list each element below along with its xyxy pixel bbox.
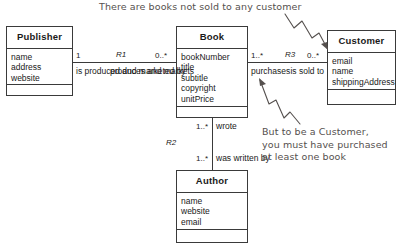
- attribute: bookNumber: [181, 52, 247, 62]
- class-operations-author: [177, 230, 247, 242]
- attribute: shippingAddress: [332, 77, 395, 87]
- multiplicity-r1-publisher-end: 1: [76, 51, 80, 60]
- attribute: website: [11, 73, 72, 83]
- attribute: email: [332, 56, 395, 66]
- pointer-arrow-right-annotation: [256, 76, 302, 126]
- attribute: name: [181, 196, 247, 206]
- pointer-arrow-top-annotation: [283, 12, 333, 54]
- association-line-r3[interactable]: [248, 62, 327, 63]
- association-name-r1: R1: [116, 50, 126, 59]
- class-name-publisher: Publisher: [7, 27, 72, 49]
- uml-class-diagram: Publisher name address website Book book…: [0, 0, 399, 248]
- attribute: name: [11, 52, 72, 62]
- attribute: email: [181, 217, 247, 227]
- multiplicity-r1-book-end: 0..*: [155, 51, 167, 60]
- class-name-author: Author: [177, 171, 247, 193]
- role-r3-customer-side: is sold to: [262, 66, 324, 76]
- association-line-r2[interactable]: [212, 118, 213, 170]
- class-operations-customer: [328, 90, 395, 104]
- multiplicity-r3-book-end: 1..*: [251, 51, 263, 60]
- association-name-r2: R2: [166, 138, 176, 147]
- class-operations-book: [177, 107, 247, 117]
- attribute: address: [11, 62, 72, 72]
- attribute: website: [181, 206, 247, 216]
- class-box-customer[interactable]: Customer email name shippingAddress: [327, 30, 396, 105]
- class-name-customer: Customer: [328, 31, 395, 53]
- role-r2-book-side: wrote: [216, 121, 237, 131]
- association-line-r1[interactable]: [73, 62, 176, 63]
- attribute: copyright: [181, 83, 247, 93]
- association-name-r3: R3: [285, 50, 295, 59]
- multiplicity-r3-customer-end: 0..*: [307, 51, 319, 60]
- class-attributes-book: bookNumber title subtitle copyright unit…: [177, 49, 247, 107]
- class-attributes-publisher: name address website: [7, 49, 72, 85]
- class-name-book: Book: [177, 27, 247, 49]
- multiplicity-r2-book-end: 1..*: [191, 122, 208, 131]
- annotation-books-not-sold: There are books not sold to any customer: [99, 1, 302, 14]
- class-box-publisher[interactable]: Publisher name address website: [6, 26, 73, 96]
- class-box-author[interactable]: Author name website email: [176, 170, 248, 243]
- attribute: name: [332, 66, 395, 76]
- annotation-customer-must-purchase: But to be a Customer, you must have purc…: [262, 126, 388, 164]
- class-attributes-author: name website email: [177, 193, 247, 230]
- multiplicity-r2-author-end: 1..*: [191, 154, 208, 163]
- class-attributes-customer: email name shippingAddress: [328, 53, 395, 90]
- role-r1-book-side: produces and markets: [110, 66, 172, 76]
- attribute: unitPrice: [181, 94, 247, 104]
- class-operations-publisher: [7, 85, 72, 95]
